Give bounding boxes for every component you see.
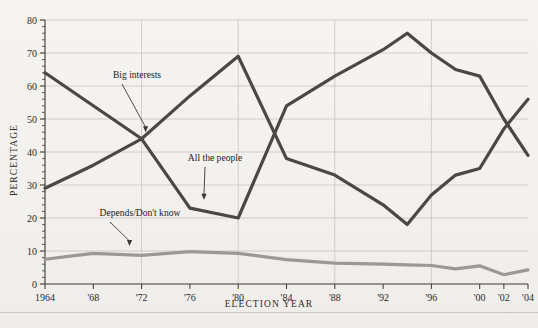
annotation-label-all_the_people: All the people [188,152,242,163]
annotation-label-depends: Depends/Don't know [100,207,181,218]
annotation-arrowhead [201,194,206,200]
series-line [45,33,528,218]
x-tick-label: '68 [87,292,99,303]
x-tick-label: '92 [377,292,389,303]
series-line [45,56,528,224]
annotation-leader-line [122,84,146,127]
y-tick-label: 50 [27,114,37,125]
x-tick-label: '72 [136,292,148,303]
y-tick-label: 10 [27,246,37,257]
annotation-label-big_interests: Big interests [113,69,161,80]
series-line [45,252,528,275]
y-tick-label: 0 [32,279,37,290]
x-tick-label: '88 [329,292,341,303]
x-axis-title: ELECTION YEAR [225,299,314,309]
page-bottom-rule [0,312,538,313]
x-tick-label: 1964 [35,292,55,303]
x-tick-label: '00 [474,292,486,303]
annotation-leader-line [204,167,205,195]
y-tick-label: 80 [27,15,37,26]
y-tick-label: 30 [27,180,37,191]
annotations-layer: Big interestsAll the peopleDepends/Don't… [100,69,243,246]
y-tick-label: 70 [27,48,37,59]
annotation-arrowhead [143,126,148,132]
annotation-arrowhead [127,240,132,246]
line-chart-svg: 01020304050607080 1964'68'72'76'80'84'88… [0,0,538,328]
y-tick-label: 20 [27,213,37,224]
y-axis-title: PERCENTAGE [9,124,19,196]
chart-figure: 01020304050607080 1964'68'72'76'80'84'88… [0,0,538,328]
y-tick-label: 40 [27,147,37,158]
x-tick-label: '04 [522,292,534,303]
y-tick-label: 60 [27,81,37,92]
x-tick-label: '96 [425,292,437,303]
annotation-leader-line [110,222,130,241]
plot-area: 01020304050607080 1964'68'72'76'80'84'88… [0,0,538,328]
x-tick-label: '76 [184,292,196,303]
x-tick-label: '02 [498,292,510,303]
y-tick-layer: 01020304050607080 [27,15,45,290]
